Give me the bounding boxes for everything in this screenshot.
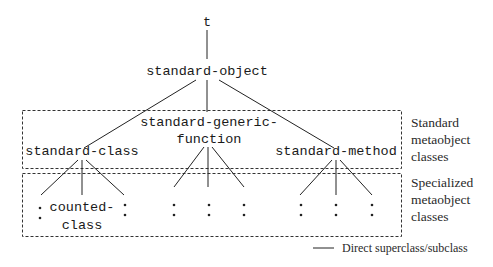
node-standard-generic-function-line2: function xyxy=(177,132,242,147)
node-standard-generic-function-line1: standard-generic- xyxy=(140,115,278,130)
node-standard-class: standard-class xyxy=(25,144,138,159)
specialized-group-label-2: metaobject xyxy=(411,192,470,207)
specialized-group-label-1: Specialized xyxy=(411,175,473,190)
node-counted-class-line2: class xyxy=(62,218,103,233)
specialized-group-label-3: classes xyxy=(411,209,449,224)
node-standard-method: standard-method xyxy=(275,144,397,159)
class-hierarchy-diagram: t standard-object standard-generic- func… xyxy=(0,0,493,267)
standard-group-label-2: metaobject xyxy=(411,132,470,147)
node-counted-class-line1: counted- xyxy=(50,200,115,215)
standard-group-label-1: Standard xyxy=(411,115,459,130)
node-t: t xyxy=(203,15,211,30)
standard-group-label-3: classes xyxy=(411,149,449,164)
hierarchy-edges xyxy=(41,30,372,195)
node-standard-object: standard-object xyxy=(146,64,268,79)
legend-label: Direct superclass/subclass xyxy=(342,241,468,255)
